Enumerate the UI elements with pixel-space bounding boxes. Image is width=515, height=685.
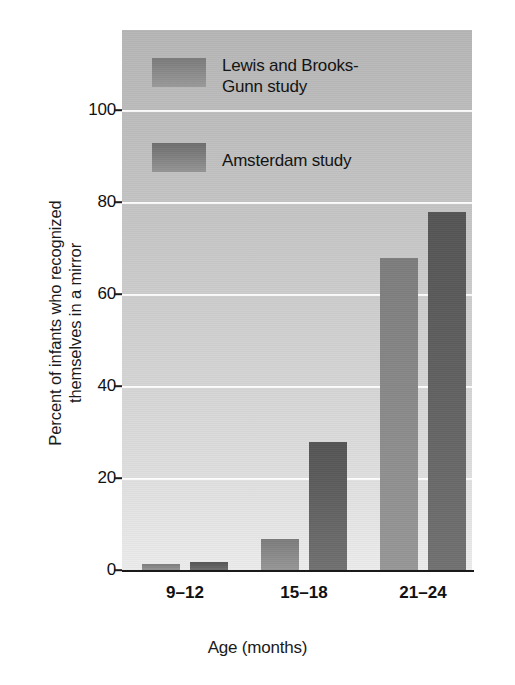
gridline-60 [122,294,472,296]
y-tick-label-100: 100 [64,100,116,120]
y-tick-label-80: 80 [64,192,116,212]
x-axis-title: Age (months) [0,638,515,658]
bar-lewis-brooksgunn-15-18 [261,539,299,571]
x-tick-label-21-24: 21–24 [399,583,446,603]
bar-amsterdam-21-24 [428,212,466,571]
legend-label-amsterdam: Amsterdam study [222,150,351,171]
y-axis-tick-labels: 100 80 60 40 20 0 [60,0,116,685]
bar-chart-figure: Percent of infants who recognized themse… [0,0,515,685]
y-tick-label-20: 20 [64,468,116,488]
y-tick-label-60: 60 [64,284,116,304]
gridline-40 [122,386,472,388]
x-axis-line [122,570,474,572]
y-tick-label-0: 0 [64,560,116,580]
gridline-20 [122,478,472,480]
bar-lewis-brooksgunn-21-24 [380,258,418,571]
gridline-80 [122,202,472,204]
plot-area: Lewis and Brooks- Gunn study Amsterdam s… [122,30,472,571]
gridline-100 [122,110,472,112]
x-tick-label-9-12: 9–12 [166,583,204,603]
legend-swatch-lewis-brooksgunn [152,58,206,87]
legend-swatch-amsterdam [152,143,206,172]
y-tick-label-40: 40 [64,376,116,396]
x-tick-label-15-18: 15–18 [280,583,327,603]
legend-label-lewis-brooksgunn: Lewis and Brooks- Gunn study [222,55,358,97]
bar-amsterdam-15-18 [309,442,347,571]
